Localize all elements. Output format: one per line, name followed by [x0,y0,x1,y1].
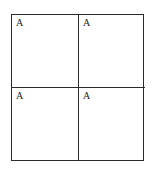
quadrant-label-top-left: A [16,17,23,28]
diagram-canvas: A A A A [0,0,154,172]
quadrant-top-left[interactable]: A [12,15,79,88]
quadrant-grid: A A A A [11,14,144,161]
quadrant-label-bottom-right: A [83,90,90,101]
quadrant-label-top-right: A [83,17,90,28]
quadrant-bottom-right[interactable]: A [79,88,145,161]
quadrant-bottom-left[interactable]: A [12,88,79,161]
quadrant-top-right[interactable]: A [79,15,145,88]
quadrant-label-bottom-left: A [16,90,23,101]
